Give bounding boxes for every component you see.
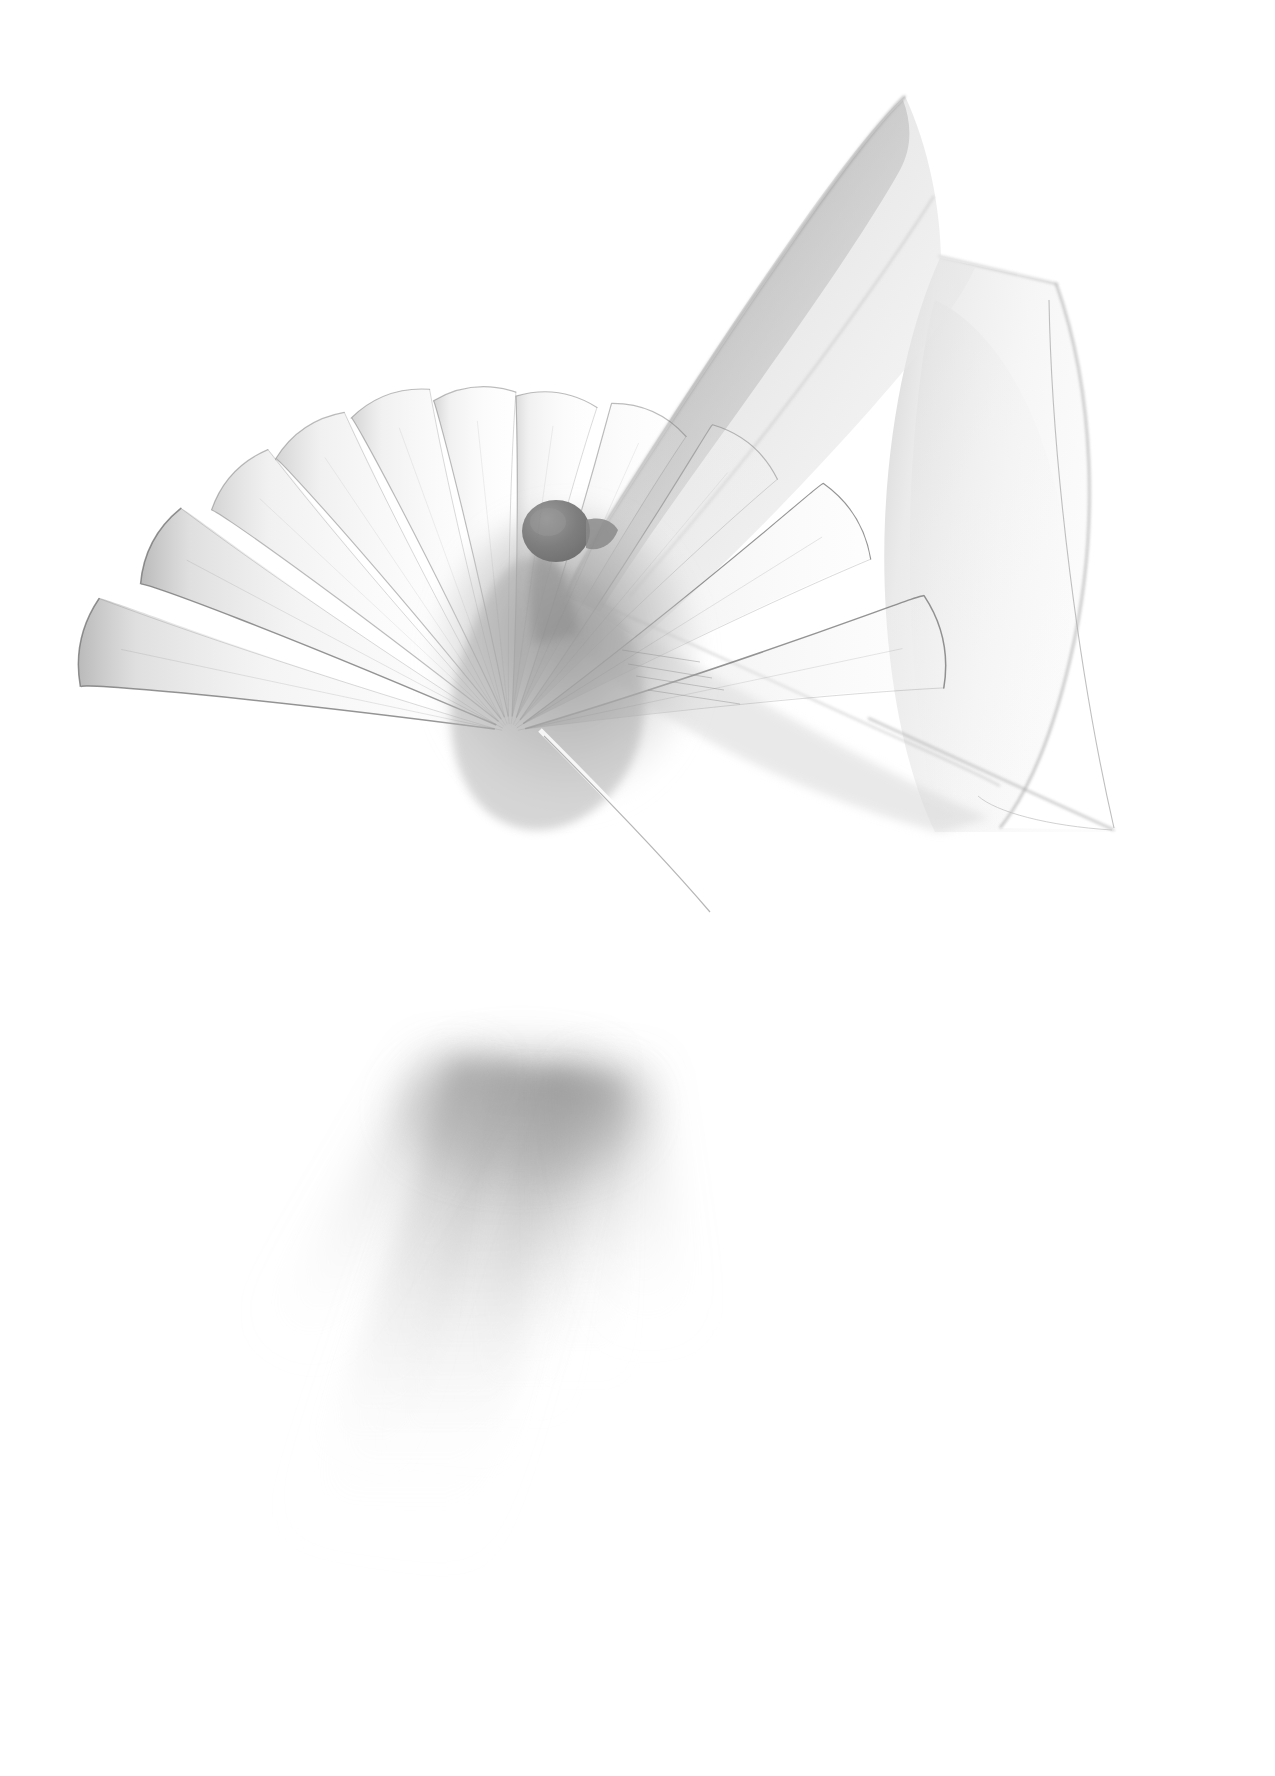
tail-root-shadow [400, 1050, 640, 1170]
paper-background [0, 0, 1275, 1776]
artboard [0, 0, 1275, 1776]
head-highlight [530, 508, 566, 536]
fan-bird-illustration [0, 0, 1275, 1776]
